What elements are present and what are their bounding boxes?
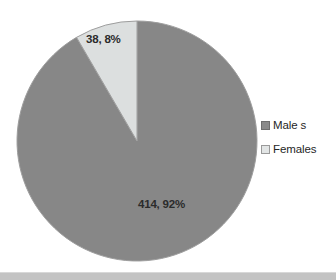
legend-item-females[interactable]: Females (261, 138, 333, 160)
bottom-divider-band (0, 272, 336, 280)
chart-legend: Male s Females (261, 114, 333, 162)
plot-area: 38, 8% 414, 92% Male s Females (0, 0, 336, 272)
pie-chart-figure: 38, 8% 414, 92% Male s Females (0, 0, 336, 280)
legend-item-males[interactable]: Male s (261, 114, 333, 136)
legend-label-females: Females (273, 143, 316, 155)
legend-swatch-males-icon (261, 121, 270, 130)
legend-swatch-females-icon (261, 145, 270, 154)
legend-label-males: Male s (273, 119, 306, 131)
data-label-females: 38, 8% (86, 33, 121, 45)
data-label-males: 414, 92% (138, 198, 185, 210)
